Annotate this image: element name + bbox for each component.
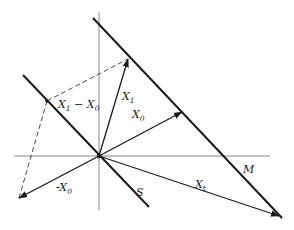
vector-diagram: X1 X0 Xt -X0 X1 − X0 S M	[0, 0, 294, 230]
label-m: M	[242, 163, 255, 176]
label-s: S	[136, 186, 144, 199]
label-x1-minus-x0: X1 − X0	[57, 98, 100, 113]
plane-m-line	[93, 18, 282, 218]
dashed-parallelogram-edge-top	[47, 59, 128, 101]
vector-x1-arrow	[99, 59, 128, 156]
difference-point	[45, 99, 49, 103]
label-neg-x0: -X0	[56, 181, 72, 196]
label-x1: X1	[121, 90, 135, 105]
dashed-parallelogram-edge-left	[19, 101, 47, 198]
label-x0: X0	[131, 108, 145, 123]
origin-point	[97, 154, 101, 158]
label-xt: Xt	[194, 178, 207, 193]
